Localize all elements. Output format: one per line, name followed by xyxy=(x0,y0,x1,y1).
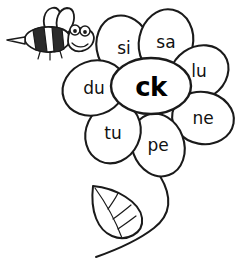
flower-center: ck xyxy=(111,58,191,114)
bee-body xyxy=(7,27,70,60)
center-label: ck xyxy=(135,72,168,102)
worksheet-canvas: sisalunepetudu ck xyxy=(0,0,241,268)
petal-du-label: du xyxy=(83,78,105,98)
flower-leaf xyxy=(92,186,142,238)
petal-lu-label: lu xyxy=(191,61,207,81)
bee-illustration xyxy=(7,8,94,60)
line-art-illustration: sisalunepetudu ck xyxy=(0,0,241,268)
petal-ne-label: ne xyxy=(192,108,213,128)
petal-tu-label: tu xyxy=(104,123,121,143)
petal-si-label: si xyxy=(117,38,131,58)
petal-sa-label: sa xyxy=(156,32,175,52)
petal-pe-label: pe xyxy=(147,135,168,155)
bee-head xyxy=(68,25,94,51)
